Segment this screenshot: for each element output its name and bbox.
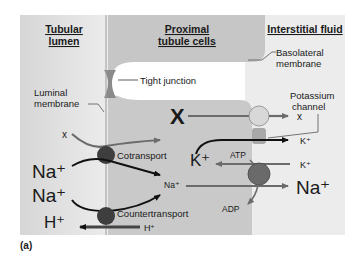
basolateral-label-2: membrane xyxy=(276,58,321,69)
cotransport-label: Cotransport xyxy=(117,150,167,161)
solute-na-cell: Na⁺ xyxy=(164,180,180,190)
solute-k-out: K⁺ xyxy=(300,136,311,146)
potassium-channel-icon xyxy=(252,128,266,144)
solute-k-cell: K⁺ xyxy=(190,151,210,170)
tubular-lumen-title-1: Tubular xyxy=(45,23,83,35)
countertransporter-icon xyxy=(97,207,115,225)
solute-x-lumen: x xyxy=(62,129,67,140)
proximal-cells-title-2: tubule cells xyxy=(158,35,216,47)
potassium-channel-label-1: Potassium xyxy=(290,90,334,101)
adp-label: ADP xyxy=(222,204,240,214)
luminal-label-1: Luminal xyxy=(34,87,67,98)
solute-na-lumen-1: Na⁺ xyxy=(32,161,66,182)
solute-x-interstitial: x xyxy=(297,111,302,122)
countertransport-label: Countertransport xyxy=(117,208,189,219)
atp-label: ATP xyxy=(230,150,246,160)
solute-x-cell: X xyxy=(170,104,185,129)
solute-na-interstitial: Na⁺ xyxy=(296,177,330,198)
interstitial-fluid-title: Interstitial fluid xyxy=(267,23,342,35)
tight-junction-label: Tight junction xyxy=(140,75,196,86)
figure-caption: (a) xyxy=(20,240,32,251)
solute-na-lumen-2: Na⁺ xyxy=(32,185,66,206)
proximal-tubule-transport-diagram: Tubular lumen Proximal tubule cells Inte… xyxy=(0,0,361,263)
proximal-cells-title-1: Proximal xyxy=(165,23,209,35)
solute-h-cell: H⁺ xyxy=(144,223,156,233)
na-k-pump-icon xyxy=(248,163,270,185)
x-carrier-icon xyxy=(249,106,269,126)
basolateral-label-1: Basolateral xyxy=(276,47,324,58)
tubular-lumen-title-2: lumen xyxy=(49,35,80,47)
luminal-label-2: membrane xyxy=(34,98,79,109)
solute-h-lumen: H⁺ xyxy=(44,213,65,232)
solute-k-in: K⁺ xyxy=(300,160,311,170)
